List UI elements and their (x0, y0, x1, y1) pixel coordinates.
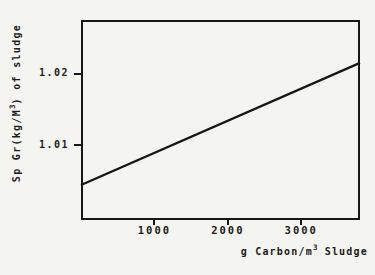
x-axis-title: g Carbon/m3 Sludge (241, 244, 368, 257)
y-axis-title-suffix: ) of sludge (11, 24, 22, 105)
y-tick-label: 1.02 (23, 67, 69, 78)
superscript-3: 3 (313, 243, 318, 252)
x-tick-label: 1000 (122, 224, 186, 236)
y-tick-mark (74, 144, 81, 146)
y-tick-label: 1.01 (23, 139, 69, 150)
y-axis-title: Sp Gr(kg/M3) of sludge (9, 12, 23, 195)
x-tick-label: 3000 (269, 224, 333, 236)
superscript-3: 3 (8, 104, 17, 109)
x-tick-label: 2000 (196, 224, 260, 236)
plot-area (81, 20, 360, 220)
chart-figure: Sp Gr(kg/M3) of sludge 1.011.02 10002000… (0, 0, 375, 275)
y-tick-mark (74, 73, 81, 75)
y-axis-title-text: Sp Gr(kg/M (11, 109, 22, 182)
x-axis-title-suffix: Sludge (317, 246, 368, 257)
x-axis-title-text: g Carbon/m (241, 246, 313, 257)
